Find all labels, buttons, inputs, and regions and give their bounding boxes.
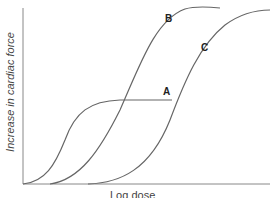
label-a: A — [163, 86, 170, 97]
label-b: B — [165, 13, 172, 24]
curve-b — [50, 7, 220, 184]
curve-a — [23, 100, 172, 184]
label-c: C — [201, 42, 208, 53]
curve-c — [88, 10, 270, 184]
x-axis-label: Log dose — [110, 189, 155, 198]
plot-area — [0, 0, 276, 198]
y-axis-label: Increase in cardiac force — [4, 22, 16, 162]
